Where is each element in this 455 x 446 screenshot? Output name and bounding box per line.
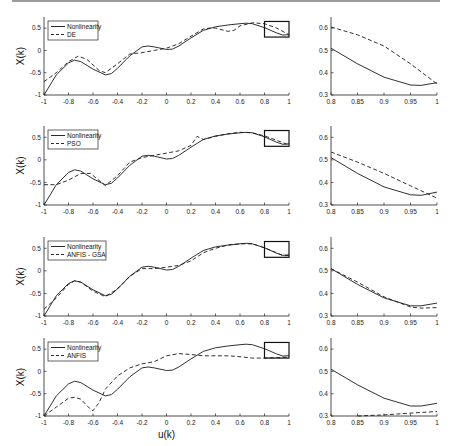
x-tick-label: 0.8 bbox=[260, 319, 269, 326]
y-tick-label: 0.3 bbox=[319, 91, 328, 98]
panel-row3-left: -1-0.8-0.6-0.4-0.200.20.40.60.81-1-0.500… bbox=[15, 237, 291, 326]
x-tick-label: 0.95 bbox=[404, 419, 417, 426]
x-tick-label: -0.4 bbox=[112, 98, 124, 105]
x-tick-label: 0.9 bbox=[379, 419, 388, 426]
y-tick-label: 0.3 bbox=[319, 201, 328, 208]
x-tick-label: 0.4 bbox=[211, 208, 220, 215]
x-tick-label: -1 bbox=[41, 208, 47, 215]
y-tick-label: -1 bbox=[35, 412, 41, 419]
x-tick-label: -1 bbox=[41, 319, 47, 326]
y-tick-label: 0.5 bbox=[32, 245, 41, 252]
series-nonlinearity bbox=[331, 369, 437, 406]
legend-label: ANFIS - GSA bbox=[67, 251, 106, 258]
x-tick-label: 0.95 bbox=[404, 208, 417, 215]
x-tick-label: -0.6 bbox=[87, 319, 99, 326]
x-tick-label: 1 bbox=[435, 419, 439, 426]
x-tick-label: 0.8 bbox=[326, 208, 335, 215]
x-tick-label: -1 bbox=[41, 98, 47, 105]
axes bbox=[331, 126, 437, 205]
x-tick-label: 0.2 bbox=[186, 319, 195, 326]
y-tick-label: 0 bbox=[37, 267, 41, 274]
x-tick-label: 0.85 bbox=[351, 419, 364, 426]
x-tick-label: -0.4 bbox=[112, 419, 124, 426]
y-tick-label: 0.5 bbox=[32, 134, 41, 141]
x-tick-label: 0.6 bbox=[235, 98, 244, 105]
y-tick-label: 0.4 bbox=[319, 290, 328, 297]
y-tick-label: 0.5 bbox=[319, 156, 328, 163]
x-tick-label: 1 bbox=[435, 319, 439, 326]
y-axis-label: X(k) bbox=[15, 267, 26, 285]
series-nonlinearity bbox=[331, 158, 437, 196]
x-tick-label: -0.8 bbox=[63, 419, 75, 426]
legend: NonlinearityANFIS bbox=[48, 342, 102, 361]
x-tick-label: 0.85 bbox=[351, 98, 364, 105]
y-tick-label: 0 bbox=[37, 368, 41, 375]
x-tick-label: -0.4 bbox=[112, 208, 124, 215]
y-tick-label: 0 bbox=[37, 47, 41, 54]
x-tick-label: 0 bbox=[165, 319, 169, 326]
series-pso bbox=[331, 152, 437, 198]
panel-row4-right: 0.80.850.90.9510.30.40.50.6 bbox=[319, 338, 439, 426]
legend-label: Nonlinearity bbox=[67, 344, 102, 352]
series-anfis bbox=[358, 412, 438, 417]
y-tick-label: 0.6 bbox=[319, 24, 328, 31]
x-tick-label: -0.8 bbox=[63, 208, 75, 215]
x-tick-label: -0.6 bbox=[87, 419, 99, 426]
legend-label: Nonlinearity bbox=[67, 243, 102, 251]
axes bbox=[331, 17, 437, 95]
x-tick-label: 0.6 bbox=[235, 319, 244, 326]
x-tick-label: 0.4 bbox=[211, 98, 220, 105]
x-tick-label: 0.9 bbox=[379, 208, 388, 215]
y-tick-label: 0.5 bbox=[319, 47, 328, 54]
y-tick-label: -1 bbox=[35, 312, 41, 319]
x-tick-label: 0.9 bbox=[379, 319, 388, 326]
axes bbox=[331, 237, 437, 316]
x-tick-label: 0.8 bbox=[326, 319, 335, 326]
y-tick-label: 0.6 bbox=[319, 134, 328, 141]
panel-row3-right: 0.80.850.90.9510.30.40.50.6 bbox=[319, 237, 439, 326]
x-tick-label: 0.4 bbox=[211, 419, 220, 426]
x-tick-label: 0.8 bbox=[260, 98, 269, 105]
y-tick-label: 0.6 bbox=[319, 345, 328, 352]
y-tick-label: -1 bbox=[35, 201, 41, 208]
legend-label: ANFIS bbox=[67, 352, 87, 359]
x-tick-label: 0.95 bbox=[404, 98, 417, 105]
x-tick-label: 0.2 bbox=[186, 98, 195, 105]
panel-row1-right: 0.80.850.90.9510.30.40.50.6 bbox=[319, 17, 439, 105]
y-axis-label: X(k) bbox=[15, 47, 26, 65]
x-tick-label: 0.8 bbox=[326, 98, 335, 105]
x-tick-label: 1 bbox=[287, 98, 291, 105]
legend: NonlinearityDE bbox=[48, 21, 102, 40]
x-axis-label: u(k) bbox=[158, 429, 175, 440]
x-tick-label: -0.2 bbox=[136, 319, 148, 326]
y-tick-label: 0.5 bbox=[32, 345, 41, 352]
figure: -1-0.8-0.6-0.4-0.200.20.40.60.81-1-0.500… bbox=[0, 0, 455, 446]
x-tick-label: -0.6 bbox=[87, 98, 99, 105]
legend-label: DE bbox=[67, 31, 77, 38]
x-tick-label: -0.2 bbox=[136, 98, 148, 105]
x-tick-label: -1 bbox=[41, 419, 47, 426]
x-tick-label: -0.8 bbox=[63, 319, 75, 326]
legend-label: PSO bbox=[67, 140, 81, 147]
y-tick-label: -0.5 bbox=[30, 179, 42, 186]
x-tick-label: 1 bbox=[287, 319, 291, 326]
legend-label: Nonlinearity bbox=[67, 132, 102, 140]
x-tick-label: 0.8 bbox=[326, 419, 335, 426]
axes bbox=[331, 338, 437, 416]
y-tick-label: 0 bbox=[37, 156, 41, 163]
series-anfis bbox=[44, 354, 289, 416]
legend: NonlinearityPSO bbox=[48, 130, 102, 149]
x-tick-label: 1 bbox=[287, 419, 291, 426]
y-tick-label: 0.5 bbox=[319, 368, 328, 375]
y-tick-label: 0.5 bbox=[32, 24, 41, 31]
y-tick-label: 0.6 bbox=[319, 245, 328, 252]
x-tick-label: 0.85 bbox=[351, 208, 364, 215]
x-tick-label: 0.9 bbox=[379, 98, 388, 105]
series-nonlinearity bbox=[331, 48, 437, 85]
x-tick-label: 0 bbox=[165, 419, 169, 426]
y-tick-label: -0.5 bbox=[30, 290, 42, 297]
y-tick-label: -0.5 bbox=[30, 69, 42, 76]
y-tick-label: 0.3 bbox=[319, 412, 328, 419]
series-nonlinearity bbox=[331, 269, 437, 306]
y-axis-label: X(k) bbox=[15, 368, 26, 386]
